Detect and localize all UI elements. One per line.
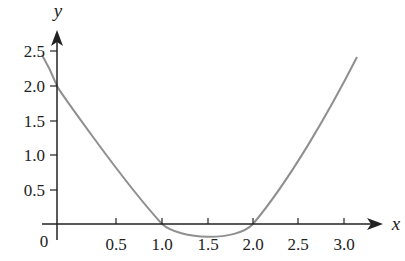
x-tick-label: 2.5 [287, 235, 308, 254]
y-tick-label: 2.0 [24, 77, 45, 96]
x-tick-label: 1.5 [197, 235, 218, 254]
y-tick-label: 1.0 [24, 146, 45, 165]
x-tick-label: 0.5 [105, 235, 126, 254]
y-tick-label: 2.5 [24, 42, 45, 61]
x-tick-label: 2.0 [242, 235, 263, 254]
y-axis-label: y [52, 0, 63, 21]
chart-canvas: 0.5 1.0 1.5 2.0 2.5 3.0 2.5 2.0 1.5 1.0 … [0, 0, 405, 261]
y-tick-label: 0.5 [24, 181, 45, 200]
origin-label: 0 [40, 232, 49, 251]
x-axis-label: x [391, 213, 401, 234]
x-tick-label: 3.0 [333, 235, 354, 254]
x-ticks [116, 218, 344, 224]
x-tick-label: 1.0 [151, 235, 172, 254]
parabola-curve [42, 55, 357, 237]
y-tick-label: 1.5 [24, 112, 45, 131]
